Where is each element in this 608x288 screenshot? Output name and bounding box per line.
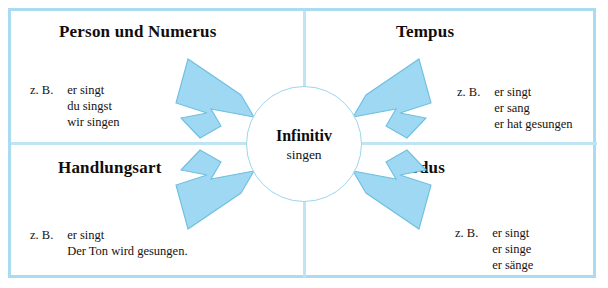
center-node: Infinitiv singen <box>246 86 362 202</box>
arrow-person-to-center <box>176 59 254 138</box>
center-title: Infinitiv <box>276 126 332 145</box>
center-subtitle: singen <box>286 146 321 163</box>
verb-categories-diagram: Infinitiv singen Person und Numerus Temp… <box>0 0 608 288</box>
arrow-tempus-to-center <box>353 59 431 138</box>
arrow-handlungsart-to-center <box>176 150 254 229</box>
arrow-modus-to-center <box>353 150 431 229</box>
